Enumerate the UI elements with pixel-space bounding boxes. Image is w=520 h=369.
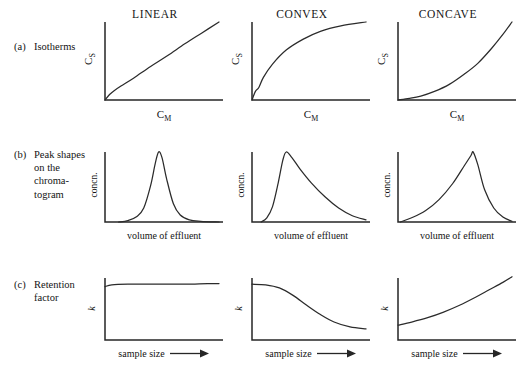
panel-retention-factor-linear <box>97 272 223 348</box>
plot-axes <box>252 22 370 100</box>
curve-isotherms-concave <box>398 22 512 100</box>
arrow-right-icon <box>170 349 210 360</box>
plot-axes <box>105 22 223 100</box>
x-axis-label-volume-of-effluent: volume of effluent <box>228 230 394 241</box>
arrow-right-icon <box>463 349 503 360</box>
row-caption-tag: (c) <box>14 278 26 291</box>
curve-peak-shapes-linear <box>119 152 219 222</box>
x-axis-label-sample-size: sample size <box>374 348 520 360</box>
row-caption-tag: (a) <box>14 40 26 53</box>
y-axis-label-k: k <box>379 299 390 319</box>
y-axis-label-k: k <box>233 299 244 319</box>
y-axis-label-concn: concn. <box>382 163 392 207</box>
panel-isotherms-convex <box>244 16 370 108</box>
x-axis-label-text: CM <box>450 108 464 120</box>
panel-isotherms-concave <box>390 16 516 108</box>
x-axis-label-cm: CM <box>374 108 520 120</box>
plot-axes <box>252 152 370 222</box>
x-axis-label-sample-size: sample size <box>81 348 247 360</box>
y-axis-label-text: CS <box>82 53 94 65</box>
curve-isotherms-convex <box>252 22 366 100</box>
x-axis-label-sample-size: sample size <box>228 348 394 360</box>
y-axis-label-concn: concn. <box>89 163 99 207</box>
x-axis-label-volume-of-effluent: volume of effluent <box>81 230 247 241</box>
y-axis-label-concn: concn. <box>236 163 246 207</box>
panel-peak-shapes-convex <box>244 146 370 230</box>
panel-isotherms-linear <box>97 16 223 108</box>
x-axis-label-cm: CM <box>81 108 247 120</box>
curve-isotherms-linear <box>105 22 219 100</box>
y-axis-label-text: CS <box>375 53 387 65</box>
x-axis-label-text: CM <box>304 108 318 120</box>
plot-axes <box>398 278 516 340</box>
x-axis-label-text: sample size <box>411 348 457 359</box>
curve-retention-factor-convex <box>252 284 366 329</box>
curve-retention-factor-concave <box>398 277 512 325</box>
x-axis-label-cm: CM <box>228 108 394 120</box>
x-axis-label-text: CM <box>157 108 171 120</box>
y-axis-label-cs: CS <box>229 46 241 72</box>
plot-axes <box>105 278 223 340</box>
y-axis-label-cs: CS <box>82 46 94 72</box>
panel-peak-shapes-concave <box>390 146 516 230</box>
y-axis-label-cs: CS <box>375 46 387 72</box>
y-axis-label-text: CS <box>229 53 241 65</box>
x-axis-label-text: sample size <box>118 348 164 359</box>
panel-retention-factor-concave <box>390 272 516 348</box>
y-axis-label-k: k <box>86 299 97 319</box>
plot-axes <box>398 22 516 100</box>
panel-peak-shapes-linear <box>97 146 223 230</box>
row-caption-peak-shapes: (b)Peak shapes on the chroma- togram <box>14 148 100 201</box>
x-axis-label-volume-of-effluent: volume of effluent <box>374 230 520 241</box>
curve-retention-factor-linear <box>105 284 219 287</box>
curve-peak-shapes-concave <box>400 152 512 222</box>
row-caption-tag: (b) <box>14 148 26 161</box>
panel-retention-factor-convex <box>244 272 370 348</box>
plot-axes <box>105 152 223 222</box>
plot-axes <box>398 152 516 222</box>
arrow-right-icon <box>317 349 357 360</box>
curve-peak-shapes-convex <box>261 152 366 222</box>
x-axis-label-text: sample size <box>265 348 311 359</box>
